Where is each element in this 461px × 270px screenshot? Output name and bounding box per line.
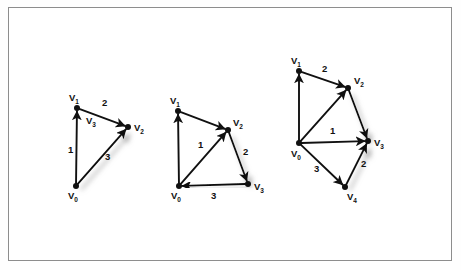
graph-edge-e-v0-v1 (178, 114, 179, 183)
edge-weight-e-v2-v3: 2 (243, 146, 248, 157)
graph-vertex-v0 (73, 183, 79, 189)
graph-edge-e-v0-v4 (301, 145, 343, 185)
vertex-label-v3: V3 (254, 181, 264, 194)
graph-vertex-v1 (74, 105, 80, 111)
graphs-layer: 123V1V2V0V3123V1V2V3V02132V1V2V3V0V4 (68, 55, 384, 204)
graph-vertex-v3 (245, 181, 251, 187)
graph-1: 123V1V2V0V3 (68, 92, 144, 203)
graph-edge-e-v0-v3 (301, 141, 364, 143)
graph-3: 2132V1V2V3V0V4 (291, 55, 384, 204)
vertex-label-v0: V0 (171, 190, 181, 203)
edge-weight-e-v4-v3: 2 (361, 158, 366, 169)
edge-weight-e-v0-v2: 1 (198, 139, 204, 150)
edge-weight-e-v0-v2: 3 (105, 151, 110, 162)
figure-page: 123V1V2V0V3123V1V2V3V02132V1V2V3V0V4 (0, 0, 461, 270)
graph-canvas: 123V1V2V0V3123V1V2V3V02132V1V2V3V0V4 (0, 0, 461, 270)
vertex-label-v0: V0 (68, 190, 78, 203)
vertex-label-v2: V2 (134, 122, 144, 135)
graph-vertex-v0 (296, 140, 302, 146)
graph-edge-e-v2-v3 (349, 90, 367, 138)
vertex-label-v4: V4 (347, 191, 357, 204)
edge-weight-e-v3-v0: 3 (211, 190, 216, 201)
graph-vertex-v1 (296, 68, 302, 74)
vertex-label-v1: V1 (170, 95, 180, 108)
graph-edge-e-v0-v1 (76, 111, 77, 183)
edge-weight-e-v0-v1: 1 (68, 144, 74, 155)
vertex-label-v0: V0 (291, 148, 301, 161)
graph-vertex-v2 (345, 85, 351, 91)
graph-edge-e-v0-v2 (301, 90, 346, 141)
graph-2: 123V1V2V3V0 (170, 95, 264, 203)
edge-weight-e-v0-v3: 1 (330, 125, 336, 136)
vertex-label-v1: V1 (291, 55, 301, 68)
graph-vertex-v2 (125, 124, 131, 130)
graph-edge-e-v0-v2 (78, 129, 126, 184)
edge-weight-e-v0-v4: 3 (314, 163, 319, 174)
vertex-label-v2: V2 (233, 117, 243, 130)
graph-edge-e-v1-v2 (301, 72, 345, 87)
graph-vertex-v3 (365, 138, 371, 144)
graph-edge-e-v1-v2 (180, 112, 225, 129)
graph-vertex-v0 (176, 183, 182, 189)
vertex-label-v3: V3 (374, 137, 384, 150)
graph-vertex-v1 (175, 108, 181, 114)
graph-edge-e-v3-v0 (182, 184, 245, 186)
edge-weight-e-v1-v2: 2 (322, 63, 327, 74)
annotation-label-v3-note: V3 (86, 115, 96, 128)
graph-vertex-v2 (225, 127, 231, 133)
graph-vertex-v4 (342, 184, 348, 190)
edge-weight-e-v1-v2: 2 (102, 97, 107, 108)
vertex-label-v2: V2 (354, 75, 364, 88)
vertex-label-v1: V1 (69, 92, 79, 105)
